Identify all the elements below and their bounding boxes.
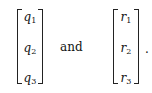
vector-entry: r3 bbox=[113, 72, 139, 84]
connector-word: and bbox=[60, 40, 83, 54]
left-column-vector: q1 q2 q3 bbox=[17, 9, 43, 84]
vector-entry: q3 bbox=[17, 72, 43, 84]
vector-entry: q2 bbox=[17, 42, 43, 54]
period: . bbox=[145, 42, 149, 56]
vector-entry: r2 bbox=[113, 42, 139, 54]
right-column-vector: r1 r2 r3 bbox=[113, 9, 139, 84]
vector-entry: q1 bbox=[17, 11, 43, 23]
vector-entry: r1 bbox=[113, 11, 139, 23]
